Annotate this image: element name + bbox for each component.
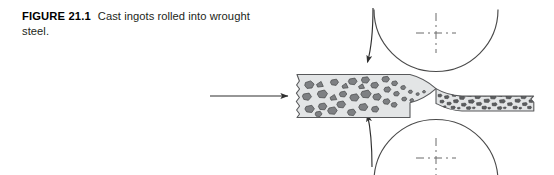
- bottom-roll: [374, 119, 498, 175]
- bottom-roll-center-mark: [416, 138, 456, 175]
- top-roll: [374, 10, 498, 72]
- exit-sheet: [436, 89, 534, 111]
- rolling-mill-diagram: [0, 0, 554, 175]
- top-roll-rotation-arrow: [368, 8, 374, 62]
- top-roll-center-mark: [416, 13, 456, 53]
- bottom-roll-arc: [374, 119, 498, 175]
- entry-slab: [296, 75, 436, 118]
- bottom-roll-rotation-arrow: [368, 115, 373, 167]
- figure-container: FIGURE 21.1Cast ingots rolled into wroug…: [0, 0, 554, 175]
